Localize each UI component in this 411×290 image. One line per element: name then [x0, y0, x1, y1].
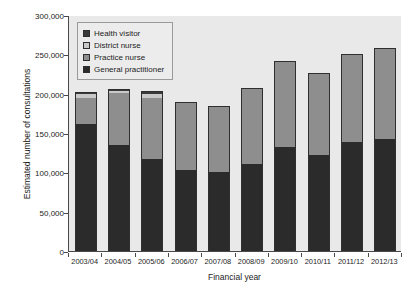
y-axis-tick-mark: [64, 16, 68, 17]
y-axis-tick-mark: [64, 55, 68, 56]
y-axis-tick-label: 250,000: [35, 51, 64, 60]
bar-group: [341, 54, 363, 251]
x-axis-tick-label: 2011/12: [338, 257, 364, 266]
bar-segment: [341, 54, 363, 142]
y-axis-tick-mark: [64, 95, 68, 96]
bar-segment: [308, 73, 330, 155]
x-axis-tick-mark: [68, 253, 69, 257]
y-axis-tick-label: 150,000: [35, 130, 64, 139]
legend-item[interactable]: Practice nurse: [83, 51, 164, 63]
y-axis-tick-label: 50,000: [40, 208, 64, 217]
bar-segment: [75, 98, 97, 125]
x-axis-tick-label: 2005/06: [138, 257, 165, 266]
bar-segment: [108, 89, 130, 91]
legend-swatch-icon: [83, 30, 90, 37]
bar-group: [141, 91, 163, 251]
bar-segment: [108, 91, 130, 93]
bar-segment: [141, 91, 163, 93]
bar-segment: [108, 93, 130, 145]
bar-segment: [274, 147, 296, 251]
x-axis-tick-mark: [235, 253, 236, 257]
bar-segment: [108, 145, 130, 251]
x-axis-tick-label: 2007/08: [204, 257, 231, 266]
bar-segment: [341, 142, 363, 251]
bar-segment: [75, 94, 97, 98]
x-axis-tick-mark: [401, 253, 402, 257]
bar-segment: [374, 48, 396, 139]
y-axis-tick-mark: [64, 134, 68, 135]
legend-item-label: Practice nurse: [94, 53, 145, 62]
bar-group: [108, 89, 130, 251]
legend-swatch-icon: [83, 66, 90, 73]
x-axis-tick-label: 2008/09: [238, 257, 265, 266]
bar-segment: [175, 170, 197, 251]
x-axis-tick-label: 2012/13: [371, 257, 398, 266]
x-axis-tick-label: 2010/11: [305, 257, 331, 266]
bar-segment: [274, 61, 296, 147]
y-axis-tick-label: 200,000: [35, 90, 64, 99]
y-axis-tick-label: 300,000: [35, 12, 64, 21]
x-axis-tick-mark: [334, 253, 335, 257]
y-axis-tick-label: 100,000: [35, 169, 64, 178]
bar-segment: [141, 94, 163, 98]
legend-item-label: General practitioner: [94, 65, 164, 74]
x-axis-tick-mark: [101, 253, 102, 257]
y-axis-tick-mark: [64, 173, 68, 174]
bar-group: [241, 88, 263, 251]
legend-swatch-icon: [83, 42, 90, 49]
legend-swatch-icon: [83, 54, 90, 61]
plot-area: Health visitorDistrict nursePractice nur…: [68, 16, 401, 252]
bar-segment: [241, 88, 263, 164]
x-axis-tick-mark: [135, 253, 136, 257]
chart-figure: Health visitorDistrict nursePractice nur…: [0, 0, 411, 290]
bar-segment: [75, 92, 97, 94]
bar-group: [274, 61, 296, 251]
x-axis-tick-mark: [268, 253, 269, 257]
bar-segment: [208, 106, 230, 172]
x-axis-tick-label: 2009/10: [271, 257, 298, 266]
bar-group: [374, 48, 396, 251]
x-axis-tick-mark: [301, 253, 302, 257]
legend-item-label: District nurse: [94, 41, 141, 50]
y-axis-tick-mark: [64, 213, 68, 214]
x-axis-tick-label: 2003/04: [71, 257, 98, 266]
bar-group: [308, 73, 330, 251]
bar-segment: [75, 124, 97, 251]
bar-segment: [374, 139, 396, 251]
chart-legend: Health visitorDistrict nursePractice nur…: [77, 22, 173, 80]
x-axis-tick-mark: [201, 253, 202, 257]
bar-segment: [241, 164, 263, 251]
legend-item[interactable]: Health visitor: [83, 27, 164, 39]
legend-item-label: Health visitor: [94, 29, 140, 38]
bar-segment: [208, 172, 230, 251]
x-axis-title: Financial year: [68, 272, 401, 282]
x-axis-tick-label: 2004/05: [105, 257, 132, 266]
y-axis-title: Estimated number of consultations: [22, 16, 34, 252]
x-axis-tick-mark: [368, 253, 369, 257]
bar-segment: [308, 155, 330, 251]
x-axis-tick-mark: [168, 253, 169, 257]
bar-group: [75, 92, 97, 251]
bar-segment: [141, 159, 163, 251]
legend-item[interactable]: District nurse: [83, 39, 164, 51]
bar-segment: [175, 102, 197, 170]
bar-group: [175, 102, 197, 251]
bar-group: [208, 106, 230, 251]
legend-item[interactable]: General practitioner: [83, 63, 164, 75]
x-axis-tick-label: 2006/07: [171, 257, 198, 266]
bar-segment: [141, 98, 163, 159]
